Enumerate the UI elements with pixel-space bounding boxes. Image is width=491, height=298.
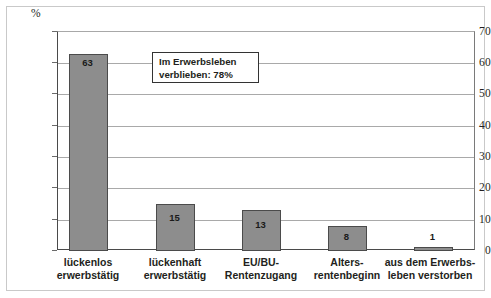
gridline-60 <box>58 63 474 64</box>
annotation-retained-in-working-life: Im Erwerbsleben verblieben: 78% <box>152 52 259 83</box>
gridline-20 <box>58 188 474 189</box>
x-category-label-verstorben-line1: aus dem Erwerbs- <box>378 256 482 269</box>
plot-area <box>57 31 475 250</box>
bar-value-luckenhaft: 15 <box>155 212 194 223</box>
x-category-label-luckenlos: lückenlos erwerbstätig <box>38 256 138 282</box>
x-category-label-verstorben: aus dem Erwerbs- leben verstorben <box>378 256 482 282</box>
y-tick-mark-0 <box>52 250 57 251</box>
bar-value-luckenlos: 63 <box>68 57 107 68</box>
chart-figure: % 70 60 50 40 30 20 10 0 63 15 13 8 1 Im… <box>0 0 491 298</box>
bar-value-verstorben: 1 <box>413 231 452 242</box>
x-category-label-verstorben-line2: leben verstorben <box>378 269 482 282</box>
bar-value-altersrente: 8 <box>327 231 366 242</box>
x-category-label-luckenhaft-line1: lückenhaft <box>125 256 225 269</box>
bar-luckenlos-erwerbstaetig[interactable] <box>69 54 108 251</box>
annotation-line-1: Im Erwerbsleben <box>159 56 258 69</box>
gridline-50 <box>58 94 474 95</box>
x-category-label-luckenhaft-line2: erwerbstätig <box>125 269 225 282</box>
bar-eu-bu-rentenzugang[interactable] <box>242 210 281 251</box>
gridline-40 <box>58 126 474 127</box>
x-category-label-luckenhaft: lückenhaft erwerbstätig <box>125 256 225 282</box>
bar-value-eu-bu: 13 <box>241 219 280 230</box>
x-category-label-eu-bu-line2: Rentenzugang <box>211 269 311 282</box>
y-axis-unit-label: % <box>31 7 41 19</box>
x-category-label-eu-bu: EU/BU- Rentenzugang <box>211 256 311 282</box>
bar-aus-dem-erwerbsleben-verstorben[interactable] <box>414 247 453 251</box>
x-category-label-luckenlos-line2: erwerbstätig <box>38 269 138 282</box>
annotation-line-2: verblieben: 78% <box>159 69 258 82</box>
x-category-label-eu-bu-line1: EU/BU- <box>211 256 311 269</box>
gridline-30 <box>58 157 474 158</box>
x-category-label-luckenlos-line1: lückenlos <box>38 256 138 269</box>
